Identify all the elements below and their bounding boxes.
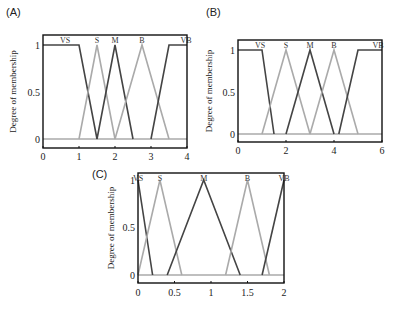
mf-label-s: S: [284, 41, 288, 50]
y-tick-label: 0: [130, 270, 135, 281]
series-b: [310, 50, 358, 134]
series-b: [115, 45, 169, 139]
x-tick-label: 1.5: [241, 287, 254, 298]
y-tick-label: 0.5: [223, 87, 236, 98]
chart-panel-0: VSSMBVB0123400.51Degree of membership: [8, 35, 192, 162]
x-tick-label: 6: [380, 145, 385, 156]
mf-label-b: B: [331, 41, 336, 50]
plot-frame: [138, 173, 284, 283]
series-s: [79, 45, 115, 139]
series-m: [97, 45, 133, 139]
chart-panel-2: VSSMBVB00.511.5200.51Degree of membershi…: [106, 173, 290, 298]
x-tick-label: 0: [41, 151, 46, 162]
x-tick-label: 0: [236, 145, 241, 156]
x-tick-label: 0: [136, 287, 141, 298]
series-s: [262, 50, 310, 134]
plot-frame: [43, 35, 187, 148]
mf-label-b: B: [139, 36, 144, 45]
mf-label-m: M: [111, 36, 118, 45]
series-vb: [151, 45, 187, 139]
x-tick-label: 1: [77, 151, 82, 162]
x-tick-label: 1: [209, 287, 214, 298]
plot-frame: [238, 40, 382, 142]
mf-label-s: S: [158, 174, 162, 183]
series-vs: [138, 180, 153, 275]
y-tick-label: 0: [35, 134, 40, 145]
y-tick-label: 0.5: [123, 222, 136, 233]
y-tick-label: 1: [230, 45, 235, 56]
y-tick-label: 1: [35, 40, 40, 51]
mf-label-s: S: [95, 36, 99, 45]
series-vb: [262, 180, 284, 275]
series-b: [226, 180, 270, 275]
y-tick-label: 0.5: [28, 87, 41, 98]
x-tick-label: 0.5: [168, 287, 181, 298]
series-vs: [43, 45, 97, 139]
x-tick-label: 4: [332, 145, 337, 156]
x-tick-label: 2: [282, 287, 287, 298]
mf-label-m: M: [306, 41, 313, 50]
y-tick-label: 1: [130, 175, 135, 186]
x-tick-label: 2: [284, 145, 289, 156]
y-axis-label: Degree of membership: [106, 186, 116, 269]
y-axis-label: Degree of membership: [204, 49, 214, 132]
x-tick-label: 3: [149, 151, 154, 162]
membership-function-charts: VSSMBVB0123400.51Degree of membershipVSS…: [0, 0, 394, 313]
mf-label-m: M: [200, 174, 207, 183]
x-tick-label: 4: [185, 151, 190, 162]
mf-label-vs: VS: [60, 36, 70, 45]
mf-label-vs: VS: [255, 41, 265, 50]
y-axis-label: Degree of membership: [8, 50, 18, 133]
mf-label-vb: VB: [180, 36, 191, 45]
series-vs: [238, 50, 274, 134]
y-tick-label: 0: [230, 129, 235, 140]
series-m: [286, 50, 334, 134]
chart-panel-1: VSSMBVB024600.51Degree of membership: [204, 40, 385, 156]
x-tick-label: 2: [113, 151, 118, 162]
mf-label-b: B: [245, 174, 250, 183]
